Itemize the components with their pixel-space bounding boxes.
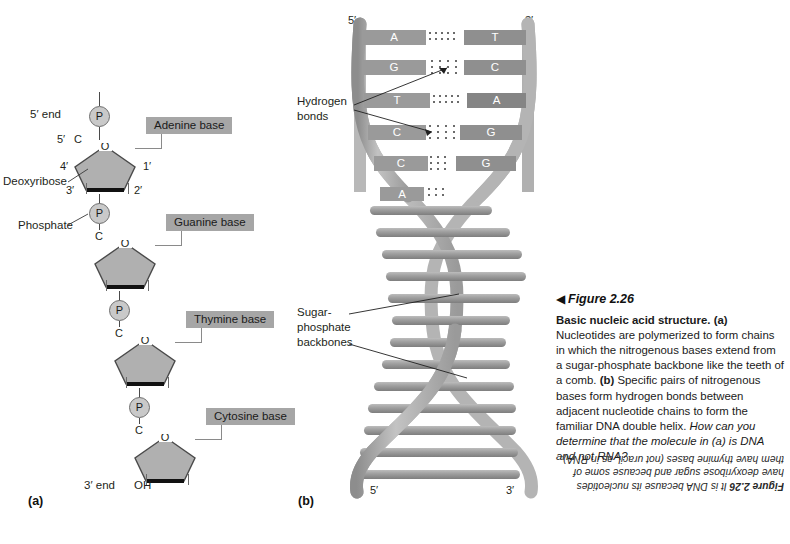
bp-block-right-4: G	[460, 125, 522, 140]
base-drop-3	[201, 327, 202, 343]
bp-letter-right-5: G	[456, 158, 516, 170]
bp-letter-right-2: C	[464, 62, 526, 74]
bp-block-left-6: A	[380, 187, 424, 201]
helix-bottom-right-prime: 3′	[506, 484, 514, 496]
base-connector-1	[135, 148, 162, 149]
caption-title: Basic nucleic acid structure.	[556, 314, 710, 326]
ring-label-3prime-1: 3′	[66, 184, 74, 196]
panel-b-letter: (b)	[298, 494, 314, 508]
ring-label-1prime-1: 1′	[143, 160, 151, 172]
bond-p1-c5	[99, 127, 100, 140]
ring-tick-3prime-1	[86, 183, 87, 194]
label-deoxyribose: Deoxyribose	[3, 175, 67, 187]
figure-number: Figure 2.26	[568, 292, 634, 306]
label-backbone-line2: phosphate	[297, 321, 351, 333]
base-label-cytosine: Cytosine base	[206, 408, 295, 425]
figure-canvas: 5′ end P 5′ C O 4′ 1′ 3′ 2′ Adenine base…	[0, 0, 790, 544]
label-phosphate: Phosphate	[18, 219, 73, 231]
label-3-prime-end: 3′ end	[84, 479, 115, 491]
bp-block-left-5: C	[374, 156, 428, 171]
phosphate-circle-1: P	[89, 106, 110, 127]
bp-letter-left-5: C	[374, 158, 428, 170]
base-connector-2	[155, 245, 182, 246]
label-hydrogen-bonds-line2: bonds	[297, 110, 328, 122]
label-backbone-line1: Sugar-	[297, 306, 332, 318]
bp-block-right-2: C	[464, 60, 526, 75]
figure-caption: ◀Figure 2.26 Basic nucleic acid structur…	[556, 292, 784, 464]
label-hydrogen-bonds-line1: Hydrogen	[297, 95, 347, 107]
figure-caption-heading: ◀Figure 2.26	[556, 292, 784, 307]
bp-block-right-1: T	[464, 30, 526, 45]
bp-block-right-5: G	[456, 156, 516, 171]
figure-answer-inverted: Figure 2.26 It is DNA because its nucleo…	[556, 452, 784, 493]
svg-text:O: O	[121, 240, 130, 249]
label-backbone-line3: backbones	[297, 336, 353, 348]
answer-figure-number: Figure 2.26	[730, 481, 784, 492]
base-label-guanine: Guanine base	[166, 214, 254, 231]
label-5-prime-end: 5′ end	[30, 108, 61, 120]
helix-bottom-left-prime: 5′	[370, 484, 378, 496]
ring-label-4prime-1: 4′	[60, 160, 68, 172]
panel-a: 5′ end P 5′ C O 4′ 1′ 3′ 2′ Adenine base…	[0, 0, 330, 544]
base-connector-3	[175, 342, 202, 343]
bp-letter-right-1: T	[464, 32, 526, 44]
ring-tick-3prime-3	[126, 377, 127, 388]
ring-tick-2prime-1	[128, 183, 129, 194]
base-drop-1	[161, 133, 162, 149]
leader-phosphate	[68, 212, 90, 228]
phosphate-circle-2: P	[89, 203, 110, 224]
bp-letter-left-1: A	[362, 32, 426, 44]
base-label-thymine: Thymine base	[186, 311, 274, 328]
svg-text:O: O	[141, 337, 150, 346]
figure-caption-body: Basic nucleic acid structure. (a) Nucleo…	[556, 313, 784, 465]
caption-b-tag: (b)	[600, 374, 615, 386]
bp-block-right-3: A	[467, 93, 526, 108]
bp-letter-right-4: G	[460, 127, 522, 139]
leader-deoxyribose	[68, 168, 90, 184]
svg-text:O: O	[101, 143, 110, 152]
bond-line-top	[99, 92, 100, 106]
label-oh: OH	[134, 479, 151, 491]
panel-a-letter: (a)	[28, 494, 43, 508]
base-label-adenine: Adenine base	[146, 117, 232, 134]
svg-text:O: O	[161, 434, 170, 443]
phosphate-circle-3: P	[109, 300, 130, 321]
base-drop-4	[221, 424, 222, 440]
base-drop-2	[181, 230, 182, 246]
ring-label-2prime-1: 2′	[134, 184, 142, 196]
bp-block-left-1: A	[362, 30, 426, 45]
leader-backbones	[347, 292, 477, 387]
bp-letter-left-6: A	[380, 189, 424, 201]
ring-tick-2prime-2	[148, 280, 149, 291]
caption-a-tag: (a)	[714, 314, 728, 326]
leader-hydrogen-bonds	[352, 60, 462, 150]
ring-tick-2prime-4	[188, 474, 189, 485]
ring-tick-3prime-2	[106, 280, 107, 291]
ring-tick-2prime-3	[168, 377, 169, 388]
bp-letter-right-3: A	[467, 95, 526, 107]
ring-label-5prime-1: 5′	[57, 133, 65, 145]
base-connector-4	[195, 439, 222, 440]
caption-triangle-icon: ◀	[556, 292, 565, 306]
phosphate-circle-4: P	[129, 397, 150, 418]
